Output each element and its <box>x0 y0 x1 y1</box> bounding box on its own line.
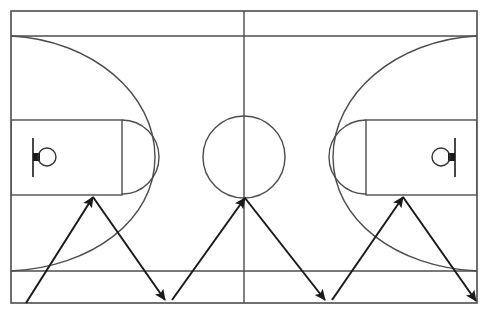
court-canvas <box>0 0 488 315</box>
basketball-court-diagram <box>0 0 488 315</box>
